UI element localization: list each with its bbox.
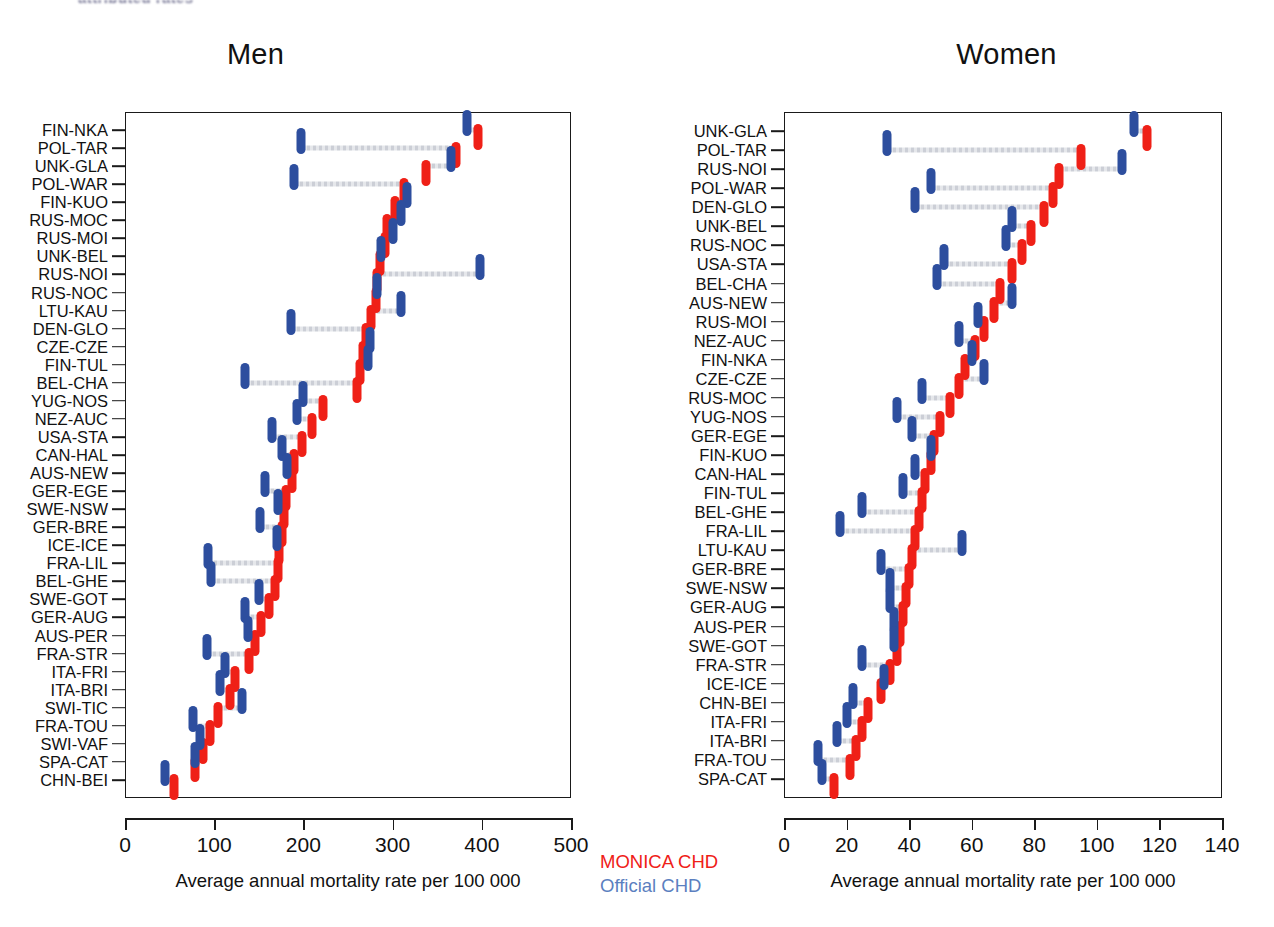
panel-women: Women UNK-GLAPOL-TARRUS-NOIPOL-WARDEN-GL… <box>637 0 1274 927</box>
marker-official-fra-lil <box>836 511 845 537</box>
connector-line <box>897 414 941 419</box>
connector-line <box>840 529 915 534</box>
marker-official-can-hal <box>911 454 920 480</box>
connector-line <box>915 205 1043 210</box>
marker-monica-fra-tou <box>845 754 854 780</box>
marker-official-rus-noi <box>476 254 485 280</box>
panel-title-women: Women <box>688 38 1274 71</box>
y-tick <box>771 340 784 342</box>
marker-official-ger-ege <box>261 471 270 497</box>
marker-official-rus-moi <box>973 302 982 328</box>
marker-official-fra-str <box>203 634 212 660</box>
marker-monica-den-glo <box>1039 201 1048 227</box>
row-label-ita-fri: ITA-FRI <box>51 663 108 680</box>
y-tick <box>112 346 125 348</box>
y-tick <box>112 364 125 366</box>
marker-official-ita-fri <box>842 702 851 728</box>
y-tick <box>112 526 125 528</box>
row-label-yug-nos: YUG-NOS <box>31 393 108 410</box>
y-tick <box>771 607 784 609</box>
row-label-cze-cze: CZE-CZE <box>696 371 768 388</box>
marker-official-aus-new <box>1008 283 1017 309</box>
marker-official-pol-war <box>927 168 936 194</box>
y-tick <box>112 581 125 583</box>
x-tick <box>125 818 127 830</box>
legend-item-monica: MONICA CHD <box>600 850 718 874</box>
x-tick-label: 80 <box>1023 833 1046 857</box>
marker-official-den-glo <box>911 187 920 213</box>
marker-official-ger-bre <box>255 507 264 533</box>
y-tick <box>771 530 784 532</box>
y-tick <box>112 743 125 745</box>
y-tick <box>771 626 784 628</box>
row-label-chn-bei: CHN-BEI <box>40 772 108 789</box>
y-tick <box>771 492 784 494</box>
marker-official-ita-bri <box>216 670 225 696</box>
marker-official-usa-sta <box>268 417 277 443</box>
connector-line <box>291 326 366 331</box>
y-tick <box>771 473 784 475</box>
row-label-rus-moc: RUS-MOC <box>29 212 108 229</box>
row-label-ger-aug: GER-AUG <box>31 609 108 626</box>
x-tick <box>303 818 305 830</box>
marker-official-ltu-kau <box>958 530 967 556</box>
x-tick <box>482 818 484 830</box>
marker-monica-rus-noc <box>1017 239 1026 265</box>
panel-men: Men FIN-NKAPOL-TARUNK-GLAPOL-WARFIN-KUOR… <box>0 0 637 927</box>
x-axis-line <box>125 818 571 820</box>
row-label-ger-aug: GER-AUG <box>690 599 767 616</box>
marker-official-fra-str <box>858 645 867 671</box>
marker-monica-fin-nka <box>474 124 483 150</box>
row-label-pol-war: POL-WAR <box>32 176 108 193</box>
y-tick <box>112 400 125 402</box>
marker-official-rus-noc <box>1002 225 1011 251</box>
marker-official-swe-nsw <box>274 489 283 515</box>
row-label-rus-moi: RUS-MOI <box>37 230 109 247</box>
row-label-usa-sta: USA-STA <box>38 429 108 446</box>
connector-line <box>931 186 1053 191</box>
plot-area-men <box>125 112 571 798</box>
y-tick <box>112 617 125 619</box>
marker-official-spa-cat <box>817 759 826 785</box>
marker-monica-rus-moc <box>945 392 954 418</box>
row-label-chn-bei: CHN-BEI <box>699 694 767 711</box>
y-tick <box>112 725 125 727</box>
row-label-swe-got: SWE-GOT <box>29 591 108 608</box>
y-tick <box>771 588 784 590</box>
marker-official-den-glo <box>286 309 295 335</box>
row-label-ger-ege: GER-EGE <box>32 483 108 500</box>
marker-official-unk-bel <box>377 236 386 262</box>
marker-official-ger-bre <box>876 549 885 575</box>
row-label-nez-auc: NEZ-AUC <box>35 411 108 428</box>
row-label-ice-ice: ICE-ICE <box>47 537 108 554</box>
y-tick <box>112 238 125 240</box>
x-tick <box>571 818 573 830</box>
row-label-fin-nka: FIN-NKA <box>701 351 767 368</box>
x-tick-label: 0 <box>119 833 131 857</box>
row-label-rus-noc: RUS-NOC <box>31 284 108 301</box>
x-tick-label: 400 <box>464 833 499 857</box>
connector-line <box>208 561 278 566</box>
connector-line <box>937 281 1000 286</box>
marker-monica-pol-war <box>1049 182 1058 208</box>
row-label-cze-cze: CZE-CZE <box>37 338 109 355</box>
y-tick <box>771 168 784 170</box>
y-tick <box>771 245 784 247</box>
marker-monica-swi-tic <box>213 702 222 728</box>
row-label-fra-str: FRA-STR <box>37 645 109 662</box>
row-label-swi-vaf: SWI-VAF <box>40 736 108 753</box>
x-tick <box>393 818 395 830</box>
legend: MONICA CHD Official CHD <box>600 850 718 897</box>
y-tick <box>771 683 784 685</box>
marker-official-unk-gla <box>1130 111 1139 137</box>
marker-official-rus-moc <box>396 200 405 226</box>
y-tick <box>112 292 125 294</box>
y-tick <box>771 702 784 704</box>
marker-official-nez-auc <box>293 399 302 425</box>
row-label-unk-gla: UNK-GLA <box>694 123 767 140</box>
row-label-swe-nsw: SWE-NSW <box>26 501 108 518</box>
x-tick-label: 300 <box>375 833 410 857</box>
row-label-fin-tul: FIN-TUL <box>45 356 108 373</box>
x-tick-label: 40 <box>897 833 920 857</box>
y-tick <box>112 490 125 492</box>
